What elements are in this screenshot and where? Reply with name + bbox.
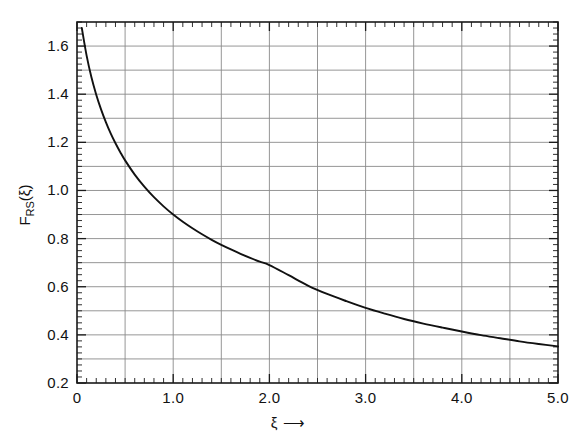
y-tick-label: 0.2 (47, 374, 69, 391)
x-tick-label: 4.0 (451, 389, 473, 406)
y-tick-label: 1.2 (47, 133, 69, 150)
y-axis-symbol-F: F (16, 216, 33, 225)
y-tick-label: 0.6 (47, 278, 69, 295)
x-tick-label: 2.0 (259, 389, 281, 406)
x-tick-label: 0 (73, 389, 82, 406)
x-axis-title-text: ξ⟶ (271, 414, 306, 431)
y-tick-label: 0.8 (47, 230, 69, 247)
x-axis-arrow-icon: ⟶ (283, 414, 305, 431)
x-axis-symbol-xi: ξ (271, 414, 278, 431)
plot-canvas: 01.02.03.04.05.0 0.20.40.60.81.01.21.41.… (0, 0, 581, 445)
x-tick-label: 5.0 (547, 389, 569, 406)
y-tick-label: 1.6 (47, 37, 69, 54)
figure-container: 01.02.03.04.05.0 0.20.40.60.81.01.21.41.… (0, 0, 581, 445)
y-tick-label: 0.4 (47, 326, 69, 343)
x-tick-label: 3.0 (355, 389, 377, 406)
y-tick-label: 1.0 (47, 181, 69, 198)
y-tick-label: 1.4 (47, 85, 69, 102)
x-tick-label: 1.0 (162, 389, 184, 406)
y-axis-subscript-RS: RS (24, 201, 36, 216)
y-axis-argument-xi: (ξ) (16, 184, 33, 201)
figure-background (0, 0, 581, 445)
x-axis-title: ξ⟶ (271, 414, 306, 431)
